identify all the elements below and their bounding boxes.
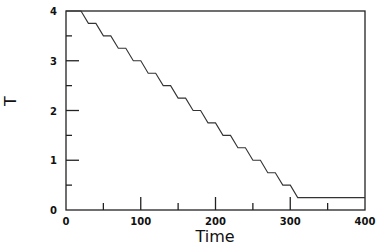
x-tick-label: 400	[355, 216, 376, 227]
x-axis-title: Time	[194, 227, 234, 246]
y-tick-label: 0	[50, 205, 57, 216]
axis-ticks	[66, 36, 328, 210]
plot-frame	[66, 11, 365, 210]
x-tick-label: 300	[280, 216, 301, 227]
line-chart: 010020030040001234 Time T	[0, 0, 382, 249]
y-tick-label: 2	[50, 106, 57, 117]
temperature-series-line	[66, 11, 365, 198]
x-tick-label: 0	[63, 216, 70, 227]
plot-border	[66, 11, 365, 210]
x-tick-label: 200	[205, 216, 226, 227]
y-tick-label: 3	[50, 56, 57, 67]
y-tick-label: 1	[50, 155, 57, 166]
x-tick-label: 100	[130, 216, 151, 227]
tick-labels: 010020030040001234	[50, 6, 375, 227]
y-tick-label: 4	[50, 6, 57, 17]
y-axis-title: T	[1, 96, 20, 107]
